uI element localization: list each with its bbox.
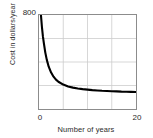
x-axis-tick-0: 0 xyxy=(33,113,47,122)
gridlines xyxy=(39,15,136,109)
plot-area xyxy=(38,14,137,110)
plot-svg xyxy=(39,15,136,109)
x-axis-title: Number of years xyxy=(24,125,148,135)
x-axis-tick-20: 20 xyxy=(128,113,146,122)
cost-decay-curve xyxy=(41,15,136,92)
y-axis-tick-800: 800 xyxy=(14,8,36,17)
chart-figure: Cost in dollars/year 800 0 20 Number of … xyxy=(0,0,153,138)
